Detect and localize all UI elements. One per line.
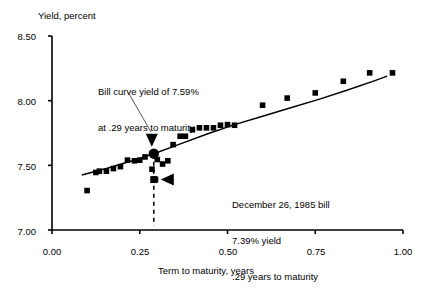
- data-point: [197, 125, 203, 131]
- data-point: [204, 125, 210, 131]
- data-point: [118, 164, 124, 170]
- data-point: [312, 90, 318, 96]
- bill-curve-yield-point: [149, 148, 159, 158]
- data-point: [260, 102, 266, 108]
- scatter-points: [84, 70, 395, 193]
- data-point: [211, 125, 217, 131]
- axis-lines: [52, 36, 403, 230]
- data-point: [341, 78, 347, 84]
- data-point: [84, 188, 90, 194]
- data-point: [165, 158, 171, 164]
- bill-yield-curve-chart: Yield, percent Term to maturity, years 8…: [0, 0, 427, 288]
- data-point: [232, 122, 238, 128]
- data-point: [390, 70, 396, 76]
- arrow-left-icon: [161, 174, 174, 186]
- data-point: [284, 95, 290, 101]
- data-point: [104, 168, 110, 174]
- data-point: [225, 122, 231, 128]
- december-26-1985-bill-point: [150, 176, 157, 183]
- arrow-down-icon: [146, 134, 158, 147]
- plot-area: [0, 0, 427, 288]
- data-point: [177, 133, 183, 139]
- data-point: [190, 127, 196, 133]
- data-point: [160, 161, 166, 167]
- data-point: [183, 133, 189, 139]
- annotation-leader-line: [128, 92, 151, 132]
- data-point: [137, 157, 143, 163]
- data-point: [367, 70, 373, 76]
- data-point: [132, 158, 138, 164]
- data-point: [125, 157, 131, 163]
- data-point: [142, 154, 148, 160]
- data-point: [97, 168, 103, 174]
- data-point: [218, 122, 224, 128]
- data-point: [170, 142, 176, 148]
- data-point: [111, 166, 117, 172]
